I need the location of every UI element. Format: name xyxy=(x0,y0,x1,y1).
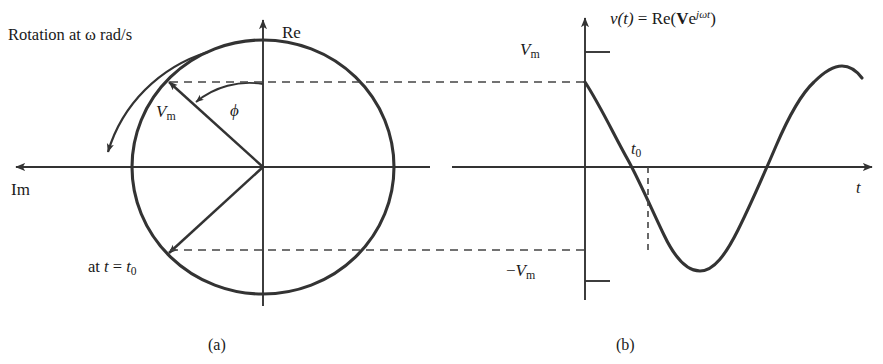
ytick-label-positive-vm: Vm xyxy=(520,41,540,61)
axis-time-label: t xyxy=(856,180,861,197)
ytick-positive-sub: m xyxy=(530,47,539,61)
caption-panel-b: (b) xyxy=(616,337,635,353)
phasor-magnitude-label: Vm xyxy=(156,103,176,123)
ytick-negative-base: V xyxy=(516,261,526,280)
ytick-negative-prefix: − xyxy=(506,261,516,280)
phasor-time-sub: 0 xyxy=(131,265,137,277)
ytick-positive-base: V xyxy=(520,40,530,59)
ytick-label-negative-vm: −Vm xyxy=(506,262,535,282)
phasor-time-label: at t = t0 xyxy=(88,259,137,278)
waveform-title-eq: = Re( xyxy=(634,9,677,28)
figure-canvas xyxy=(0,0,883,364)
axis-imag-label: Im xyxy=(11,181,30,198)
phasor-magnitude-sub: m xyxy=(166,109,175,123)
phase-angle-arc xyxy=(196,83,263,102)
phasor-arrow-t0 xyxy=(169,167,263,253)
waveform-title-v: v xyxy=(610,9,618,28)
phase-angle-label: ϕ xyxy=(230,102,239,119)
axis-real-label: Re xyxy=(282,24,301,41)
phasor-time-prefix: at xyxy=(88,257,104,276)
t0-marker-sub: 0 xyxy=(636,147,642,159)
waveform-title-exponent: jωt xyxy=(696,8,710,20)
rotation-label: Rotation at ω rad/s xyxy=(8,27,132,44)
waveform-title-e: e xyxy=(689,9,697,28)
sinusoid-curve xyxy=(585,66,862,271)
panel-b-group xyxy=(452,18,872,300)
phasor-magnitude-base: V xyxy=(156,102,166,121)
phasor-time-eq: = xyxy=(109,257,127,276)
waveform-title-bold-v: V xyxy=(676,9,688,28)
phasor-arrow-vm xyxy=(169,82,263,167)
phasor-figure: Rotation at ω rad/s Re Im Vm ϕ at t = t0… xyxy=(0,0,883,364)
waveform-title: v(t) = Re(Vejωt) xyxy=(610,9,716,27)
ytick-negative-sub: m xyxy=(526,268,535,282)
waveform-title-close: ) xyxy=(710,9,716,28)
t0-marker-label: t0 xyxy=(631,141,641,160)
caption-panel-a: (a) xyxy=(208,337,226,353)
waveform-title-paren-t: (t) xyxy=(618,9,634,28)
